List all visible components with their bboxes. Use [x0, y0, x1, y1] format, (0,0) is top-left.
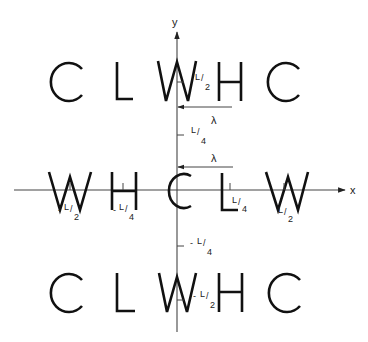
- svg-text:/: /: [70, 204, 73, 214]
- svg-text:2: 2: [74, 212, 79, 222]
- letter-c: [51, 63, 82, 101]
- svg-text:2: 2: [210, 300, 215, 310]
- svg-text:/: /: [125, 204, 128, 214]
- y-tick-neg-quarter: - L / 4: [177, 236, 212, 257]
- diagram-canvas: y x L / 2 L / 4 - L /: [0, 0, 368, 342]
- letter-w: [266, 172, 308, 210]
- svg-text:4: 4: [129, 212, 134, 222]
- svg-text:L: L: [200, 289, 205, 299]
- svg-text:/: /: [203, 238, 206, 248]
- svg-text:L: L: [191, 125, 196, 135]
- wavelength-marker-lower: λ: [178, 152, 233, 167]
- y-axis-label: y: [172, 16, 178, 28]
- svg-text:/: /: [197, 127, 200, 137]
- svg-text:-: -: [190, 238, 193, 248]
- letter-l: [117, 62, 133, 99]
- letter-l: [117, 273, 135, 311]
- svg-text:L: L: [278, 205, 283, 215]
- svg-text:-: -: [58, 205, 61, 215]
- middle-row-letters: [49, 172, 308, 210]
- lattice-diagram: y x L / 2 L / 4 - L /: [0, 0, 368, 342]
- svg-text:/: /: [238, 197, 241, 207]
- svg-text:2: 2: [288, 214, 293, 224]
- lambda-label: λ: [211, 114, 217, 126]
- svg-text:/: /: [284, 207, 287, 217]
- svg-text:4: 4: [201, 136, 206, 146]
- svg-text:4: 4: [207, 247, 212, 257]
- svg-text:4: 4: [242, 204, 247, 214]
- letter-c: [268, 63, 299, 101]
- svg-text:-: -: [193, 291, 196, 301]
- x-axis-label: x: [350, 184, 356, 196]
- bottom-row-letters: [51, 273, 300, 312]
- svg-text:/: /: [201, 73, 204, 83]
- svg-text:2: 2: [205, 82, 210, 92]
- x-tick-neg-quarter: - L / 4: [113, 183, 134, 222]
- svg-text:L: L: [232, 195, 237, 205]
- top-row-letters: [51, 61, 299, 101]
- svg-text:-: -: [113, 205, 116, 215]
- y-tick-neg-half: - L / 2: [177, 289, 215, 310]
- wavelength-marker-upper: λ: [178, 107, 232, 126]
- y-tick-pos-quarter: L / 4: [177, 125, 206, 146]
- letter-h: [219, 273, 242, 312]
- svg-text:L: L: [195, 72, 200, 82]
- lambda-label: λ: [211, 152, 217, 164]
- letter-c: [269, 274, 300, 312]
- svg-text:L: L: [119, 202, 124, 212]
- svg-text:L: L: [64, 202, 69, 212]
- svg-text:/: /: [206, 291, 209, 301]
- letter-c: [169, 174, 191, 208]
- letter-c: [51, 274, 82, 312]
- letter-h: [219, 62, 241, 101]
- svg-text:L: L: [197, 236, 202, 246]
